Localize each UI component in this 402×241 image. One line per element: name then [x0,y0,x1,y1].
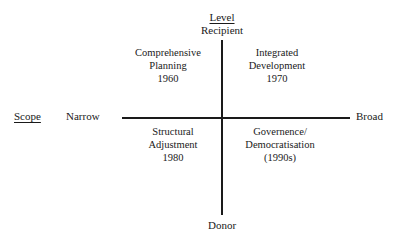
quadrant-top-right: Integrated Development 1970 [249,47,306,85]
quadrant-top-right-line2: Development [249,60,306,73]
horizontal-axis-title: Scope [14,110,41,123]
quadrant-bottom-left-line2: Adjustment [149,139,198,152]
vertical-axis-top-label: Recipient [201,24,243,37]
quadrant-bottom-right-line3: (1990s) [245,152,314,165]
quadrant-top-right-line1: Integrated [249,47,306,60]
horizontal-axis-left-label: Narrow [66,110,100,123]
quadrant-bottom-left-line1: Structural [149,126,198,139]
horizontal-axis-line [122,117,350,119]
vertical-axis-title: Level [209,11,234,24]
quadrant-top-left-line3: 1960 [135,73,201,86]
quadrant-top-left-line2: Planning [135,60,201,73]
quadrant-diagram: Level Recipient Donor Scope Narrow Broad… [0,0,402,241]
quadrant-top-left-line1: Comprehensive [135,47,201,60]
quadrant-bottom-right-line2: Democratisation [245,139,314,152]
quadrant-bottom-right: Governence/ Democratisation (1990s) [245,126,314,164]
vertical-axis-bottom-label: Donor [208,219,236,232]
quadrant-bottom-right-line1: Governence/ [245,126,314,139]
vertical-axis-line [221,40,223,215]
quadrant-bottom-left: Structural Adjustment 1980 [149,126,198,164]
horizontal-axis-right-label: Broad [356,110,383,123]
quadrant-top-right-line3: 1970 [249,73,306,86]
quadrant-top-left: Comprehensive Planning 1960 [135,47,201,85]
quadrant-bottom-left-line3: 1980 [149,152,198,165]
